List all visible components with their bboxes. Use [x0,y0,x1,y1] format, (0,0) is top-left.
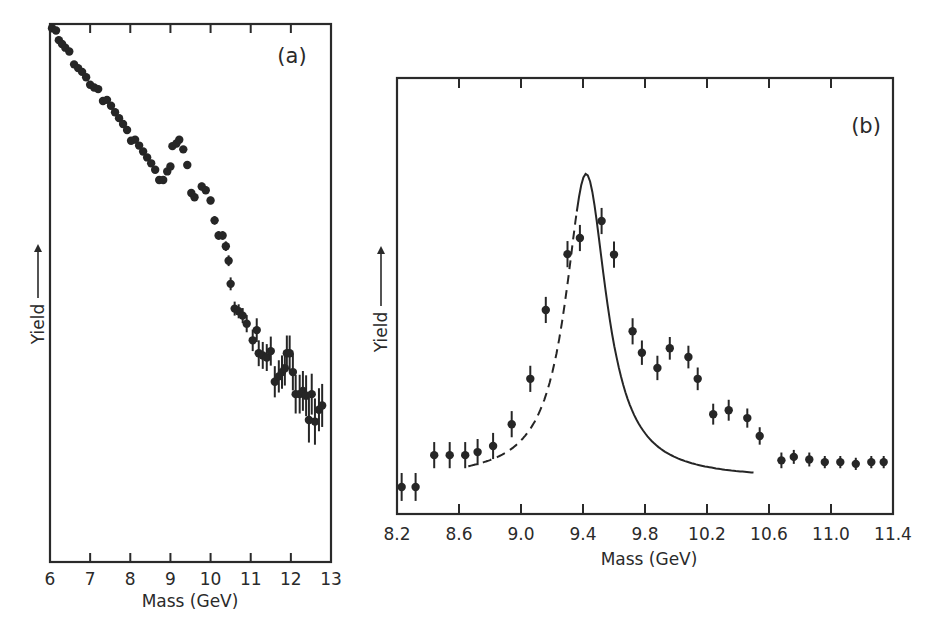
data-point [756,432,764,440]
x-tick-label: 9 [165,569,176,589]
data-point [836,458,844,466]
x-axis-tick-labels: 8.28.69.09.49.810.210.611.011.4 [383,524,911,544]
y-axis-label: Yield [28,244,48,345]
data-point [94,85,102,93]
data-point [709,410,717,418]
y-axis-label-text: Yield [28,304,48,345]
data-point [508,420,516,428]
data-point [638,348,646,356]
data-point [253,326,261,334]
data-point [461,451,469,459]
x-tick-label: 9.8 [631,524,658,544]
data-point [852,460,860,468]
data-point [123,126,131,134]
x-axis-tick-labels: 678910111213 [45,569,342,589]
data-point [179,145,187,153]
data-point [397,483,405,491]
x-tick-label: 11.0 [812,524,850,544]
data-point [210,216,218,224]
x-tick-label: 11 [240,569,262,589]
x-tick-label: 12 [280,569,302,589]
x-tick-label: 10.6 [750,524,788,544]
data-point [526,375,534,383]
data-point [243,319,251,327]
data-point [183,161,191,169]
x-axis-ticks [459,78,831,514]
data-point [684,353,692,361]
data-point [777,456,785,464]
y-axis-label: Yield [371,246,391,353]
x-tick-label: 10 [200,569,222,589]
data-point [542,306,550,314]
data-point [805,455,813,463]
arrow-up-icon [377,246,385,254]
data-point [82,73,90,81]
data-point [206,196,214,204]
data-point [151,166,159,174]
data-point [224,257,232,265]
plot-frame [50,24,331,562]
x-tick-label: 9.0 [507,524,534,544]
x-tick-label: 8 [125,569,136,589]
data-point [576,234,584,242]
data-point [222,242,230,250]
data-point [52,26,60,34]
arrow-up-icon [34,244,42,252]
x-tick-label: 6 [45,569,56,589]
data-point [743,414,751,422]
data-point [190,193,198,201]
data-point [308,390,316,398]
x-tick-label: 10.2 [688,524,726,544]
data-point [446,451,454,459]
x-tick-label: 8.6 [445,524,472,544]
data-point [159,176,167,184]
data-point [218,231,226,239]
panel-tag: (b) [851,114,881,138]
data-point [238,311,246,319]
plot-frame [397,78,893,514]
data-point [628,327,636,335]
data-point [267,347,275,355]
x-axis-label: Mass (GeV) [142,591,239,611]
x-tick-label: 13 [320,569,342,589]
panel-b: 8.28.69.09.49.810.210.611.011.4 (b) Mass… [371,78,912,569]
panel-a: 678910111213 (a) Mass (GeV) Yield [28,24,342,611]
data-point [666,344,674,352]
data-point [790,453,798,461]
data-point [249,336,257,344]
data-point [563,250,571,258]
x-tick-label: 9.4 [569,524,596,544]
panel-tag: (a) [277,44,306,68]
data-points [397,208,887,501]
data-point [430,451,438,459]
data-point [311,417,319,425]
data-point [489,442,497,450]
data-point [653,364,661,372]
data-point [166,162,174,170]
y-axis-label-text: Yield [371,312,391,353]
data-point [867,458,875,466]
data-point [610,250,618,258]
x-tick-label: 7 [85,569,96,589]
data-point [473,448,481,456]
data-point [318,401,326,409]
x-axis-label: Mass (GeV) [601,549,698,569]
figure: 678910111213 (a) Mass (GeV) Yield 8.28.6… [0,0,930,619]
data-point [411,483,419,491]
data-point [725,406,733,414]
data-point [821,458,829,466]
data-point [597,217,605,225]
data-point [226,280,234,288]
data-point [65,47,73,55]
x-tick-label: 11.4 [874,524,912,544]
x-tick-label: 8.2 [383,524,410,544]
data-point [202,186,210,194]
data-points [48,24,327,445]
data-point [694,375,702,383]
data-point [880,458,888,466]
x-axis-ticks [90,24,291,562]
data-point [175,135,183,143]
fit-curve [468,212,577,467]
